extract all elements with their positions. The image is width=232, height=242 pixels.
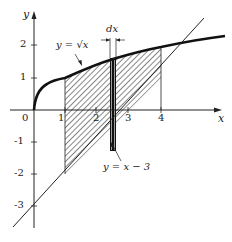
dx-label: dx bbox=[106, 23, 118, 34]
y-tick-1: 1 bbox=[20, 71, 26, 82]
x-tick-4: 4 bbox=[158, 112, 164, 123]
y-tick-2: 2 bbox=[20, 38, 26, 49]
x-axis-label: x bbox=[218, 112, 224, 125]
line-label: y = x − 3 bbox=[103, 161, 150, 172]
y-tick-neg3: -3 bbox=[14, 199, 24, 210]
y-tick-neg1: -1 bbox=[14, 135, 24, 146]
origin-label: 0 bbox=[22, 112, 28, 123]
x-tick-3: 3 bbox=[125, 112, 131, 123]
diagram-canvas bbox=[0, 0, 232, 242]
x-tick-1: 1 bbox=[58, 112, 64, 123]
y-tick-neg2: -2 bbox=[14, 167, 24, 178]
x-tick-2: 2 bbox=[93, 112, 99, 123]
sqrt-curve-label: y = √x bbox=[56, 39, 88, 50]
y-axis-arrow-icon bbox=[32, 11, 37, 19]
line-x-minus-3 bbox=[13, 18, 204, 227]
y-axis-label: y bbox=[23, 8, 29, 21]
